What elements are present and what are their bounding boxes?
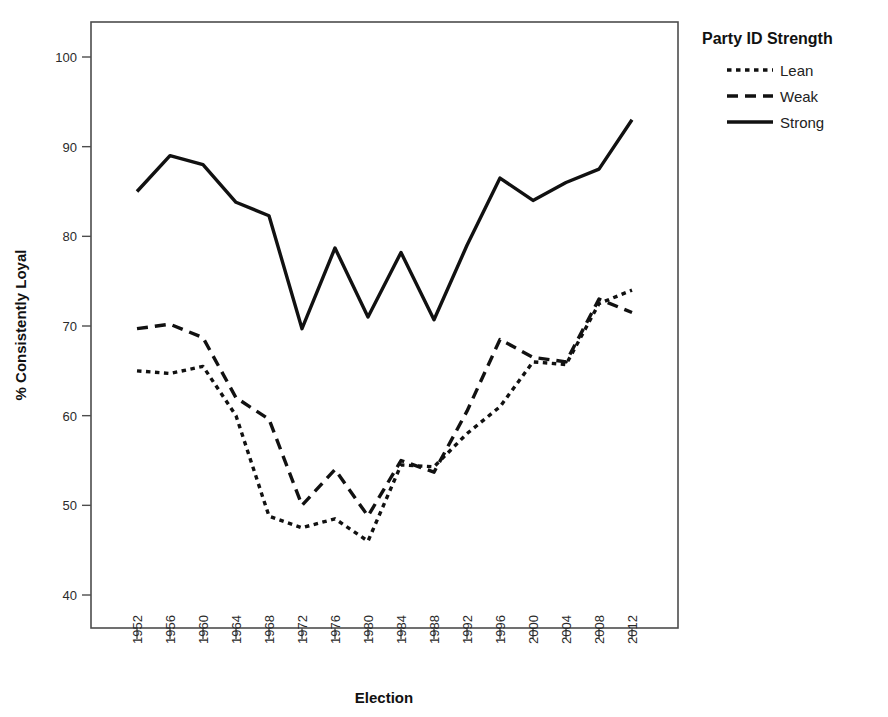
- chart-figure: 405060708090100 195219561960196419681972…: [0, 0, 888, 717]
- x-tick-label: 1952: [130, 615, 145, 644]
- x-tick-label: 1992: [460, 615, 475, 644]
- x-tick-label: 2008: [592, 615, 607, 644]
- x-axis-title: Election: [355, 689, 413, 706]
- x-tick-label: 1988: [427, 615, 442, 644]
- y-tick-label: 70: [63, 319, 77, 334]
- x-tick-label: 1972: [295, 615, 310, 644]
- x-tick-label: 1984: [394, 615, 409, 644]
- x-tick-label: 1956: [163, 615, 178, 644]
- y-tick-label: 60: [63, 409, 77, 424]
- y-tick-label: 100: [55, 50, 77, 65]
- chart-svg: 405060708090100 195219561960196419681972…: [0, 0, 888, 717]
- y-tick-label: 50: [63, 498, 77, 513]
- chart-background: [0, 0, 888, 717]
- y-tick-label: 90: [63, 140, 77, 155]
- x-tick-label: 1964: [229, 615, 244, 644]
- y-axis-title: % Consistently Loyal: [12, 250, 29, 401]
- x-tick-label: 1960: [196, 615, 211, 644]
- x-tick-label: 2000: [526, 615, 541, 644]
- legend-title: Party ID Strength: [702, 30, 833, 47]
- x-tick-label: 1976: [328, 615, 343, 644]
- x-tick-label: 1996: [493, 615, 508, 644]
- x-tick-label: 1968: [262, 615, 277, 644]
- x-tick-label: 1980: [361, 615, 376, 644]
- x-tick-label: 2012: [625, 615, 640, 644]
- legend-label-strong: Strong: [780, 114, 824, 131]
- legend-label-weak: Weak: [780, 88, 819, 105]
- y-tick-label: 40: [63, 588, 77, 603]
- legend-label-lean: Lean: [780, 62, 813, 79]
- y-tick-label: 80: [63, 229, 77, 244]
- x-tick-label: 2004: [559, 615, 574, 644]
